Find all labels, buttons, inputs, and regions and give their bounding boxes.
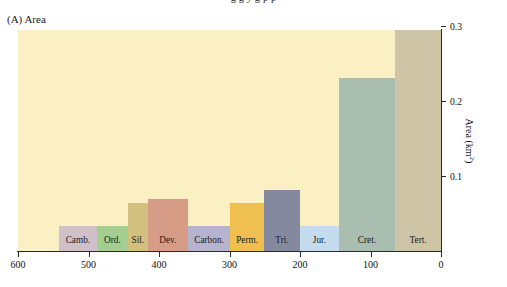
period-band-carbon[interactable]: Carbon.	[188, 226, 230, 251]
y-tick-label: 0.3	[450, 21, 462, 32]
period-label: Sil.	[128, 236, 148, 245]
y-tick-mark	[441, 176, 446, 177]
period-band-tert[interactable]: Tert.	[395, 226, 441, 251]
period-band-perm[interactable]: Perm.	[230, 226, 264, 251]
period-band-tri[interactable]: Tri.	[264, 226, 300, 251]
y-tick-mark	[441, 101, 446, 102]
y-tick-label: 0.2	[450, 96, 462, 107]
period-label: Tert.	[395, 236, 441, 245]
x-tick-mark	[300, 252, 301, 257]
y-axis-line	[441, 29, 442, 252]
period-label: Perm.	[230, 236, 264, 245]
x-tick-label: 600	[11, 259, 26, 270]
period-band-ord[interactable]: Ord.	[97, 226, 128, 251]
y-axis-title: Area (km2)	[464, 119, 476, 164]
period-label: Tri.	[264, 236, 300, 245]
period-band-dev[interactable]: Dev.	[148, 226, 188, 251]
x-tick-label: 200	[293, 259, 308, 270]
period-band-jur[interactable]: Jur.	[300, 226, 339, 251]
period-label: Carbon.	[188, 236, 230, 245]
x-tick-mark	[159, 252, 160, 257]
x-tick-label: 0	[439, 259, 444, 270]
y-tick-mark	[441, 26, 446, 27]
period-label: Camb.	[59, 236, 97, 245]
x-tick-mark	[89, 252, 90, 257]
plot-area: Camb.Ord.Sil.Dev.Carbon.Perm.Tri.Jur.Cre…	[18, 30, 441, 251]
bar-tert[interactable]	[395, 30, 441, 251]
period-band-cret[interactable]: Cret.	[339, 226, 395, 251]
x-tick-mark	[230, 252, 231, 257]
figure-panel-a: g g y g p p (A) Area Camb.Ord.Sil.Dev.Ca…	[0, 0, 507, 287]
x-tick-mark	[441, 252, 442, 257]
x-tick-mark	[371, 252, 372, 257]
period-band-camb[interactable]: Camb.	[59, 226, 97, 251]
period-label: Jur.	[300, 236, 339, 245]
period-band-sil[interactable]: Sil.	[128, 226, 148, 251]
x-tick-mark	[18, 252, 19, 257]
y-tick-label: 0.1	[450, 171, 462, 182]
x-tick-label: 400	[152, 259, 167, 270]
y-axis-title-text: Area (km	[464, 119, 475, 157]
x-tick-label: 100	[363, 259, 378, 270]
period-label: Ord.	[97, 236, 128, 245]
period-label: Cret.	[339, 236, 395, 245]
cropped-caption-text: g g y g p p	[0, 0, 507, 4]
y-axis-title-paren: )	[464, 160, 475, 163]
period-label: Dev.	[148, 236, 188, 245]
x-tick-label: 500	[81, 259, 96, 270]
x-tick-label: 300	[222, 259, 237, 270]
page-title: (A) Area	[7, 13, 46, 25]
